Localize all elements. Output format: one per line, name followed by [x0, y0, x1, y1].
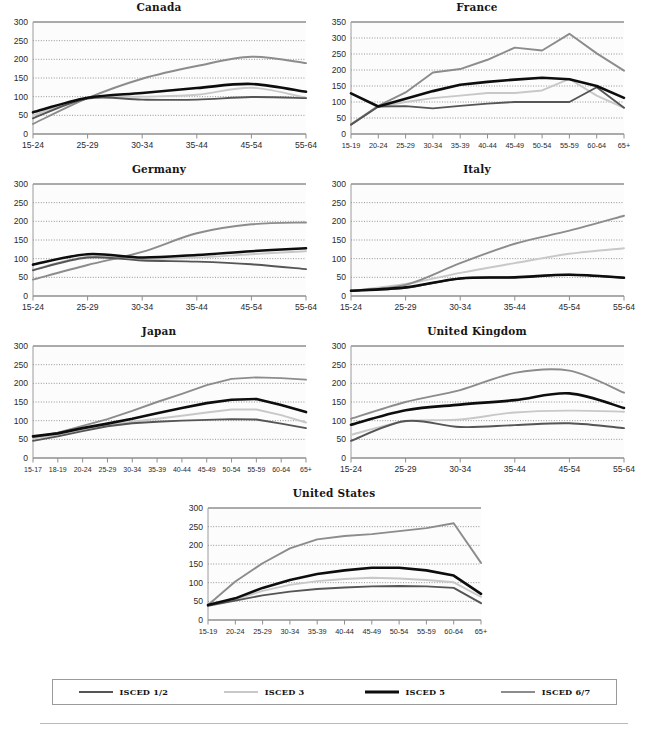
legend-item-isced-5[interactable]: ISCED 5: [335, 687, 476, 697]
y-axis-tick-label: 200: [14, 216, 29, 226]
x-axis-tick-label: 55-64: [613, 302, 635, 312]
y-axis-tick-label: 250: [332, 360, 347, 370]
y-axis-tick-label: 0: [341, 453, 346, 463]
x-axis-tick-label: 35-39: [308, 627, 327, 636]
x-axis-tick-label: 25-29: [77, 302, 99, 312]
x-axis-tick-label: 15-24: [22, 302, 44, 312]
y-axis-tick-label: 50: [18, 272, 28, 282]
y-axis-tick-label: 200: [189, 540, 204, 550]
y-axis-tick-label: 0: [341, 291, 346, 301]
y-axis-tick-label: 150: [14, 73, 29, 83]
x-axis-tick-label: 65+: [300, 466, 312, 473]
x-axis-tick-label: 15-17: [24, 466, 42, 473]
x-axis-tick-label: 30-34: [123, 466, 141, 473]
x-axis-tick-label: 20-24: [74, 466, 92, 473]
y-axis-tick-label: 250: [14, 360, 29, 370]
y-axis-tick-label: 100: [189, 578, 204, 588]
panel-canada: Canada 05010015020025030015-2425-2930-34…: [0, 0, 318, 162]
x-axis-tick-label: 65+: [618, 141, 630, 150]
panel-japan: Japan 05010015020025030015-1718-1920-242…: [0, 324, 318, 486]
y-axis-tick-label: 50: [336, 113, 346, 123]
x-axis-tick-label: 25-29: [77, 140, 99, 150]
y-axis-tick-label: 150: [189, 559, 204, 569]
panel-italy: Italy 05010015020025030015-2425-2930-343…: [318, 162, 636, 324]
y-axis-tick-label: 250: [332, 49, 347, 59]
x-axis-tick-label: 15-19: [342, 141, 361, 150]
panel-title-japan: Japan: [0, 324, 318, 338]
x-axis-tick-label: 50-54: [390, 627, 409, 636]
chart-row-3: Japan 05010015020025030015-1718-1920-242…: [0, 324, 668, 486]
chart-canada: 05010015020025030015-2425-2930-3435-4445…: [0, 14, 318, 162]
panel-united-kingdom: United Kingdom 05010015020025030015-2425…: [318, 324, 636, 486]
legend-item-isced-3[interactable]: ISCED 3: [194, 687, 335, 697]
y-axis-tick-label: 0: [341, 129, 346, 139]
y-axis-tick-label: 300: [189, 503, 204, 513]
y-axis-tick-label: 200: [14, 378, 29, 388]
x-axis-tick-label: 30-34: [449, 464, 471, 474]
y-axis-tick-label: 150: [14, 397, 29, 407]
x-axis-tick-label: 45-54: [240, 302, 262, 312]
y-axis-tick-label: 250: [189, 522, 204, 532]
y-axis-tick-label: 200: [332, 216, 347, 226]
x-axis-tick-label: 45-54: [240, 140, 262, 150]
panel-germany: Germany 05010015020025030015-2425-2930-3…: [0, 162, 318, 324]
x-axis-tick-label: 60-64: [444, 627, 463, 636]
y-axis-tick-label: 100: [14, 416, 29, 426]
panel-title-france: France: [318, 0, 636, 14]
x-axis-tick-label: 15-24: [340, 302, 362, 312]
x-axis-tick-label: 30-34: [131, 140, 153, 150]
y-axis-tick-label: 250: [14, 198, 29, 208]
y-axis-tick-label: 250: [14, 36, 29, 46]
panel-france: France 05010015020025030035015-1920-2425…: [318, 0, 636, 162]
legend-label: ISCED 1/2: [120, 687, 169, 697]
y-axis-tick-label: 300: [332, 33, 347, 43]
y-axis-tick-label: 100: [332, 254, 347, 264]
legend-item-isced-1-2[interactable]: ISCED 1/2: [53, 687, 194, 697]
x-axis-tick-label: 25-29: [396, 141, 415, 150]
y-axis-tick-label: 150: [332, 235, 347, 245]
y-axis-tick-label: 50: [336, 434, 346, 444]
legend-item-isced-6-7[interactable]: ISCED 6/7: [475, 687, 616, 697]
panel-title-germany: Germany: [0, 162, 318, 176]
x-axis-tick-label: 35-44: [504, 302, 526, 312]
y-axis-tick-label: 0: [23, 291, 28, 301]
x-axis-tick-label: 50-54: [223, 466, 241, 473]
x-axis-tick-label: 25-29: [395, 464, 417, 474]
legend-line-swatch: [79, 689, 113, 695]
x-axis-tick-label: 30-34: [131, 302, 153, 312]
legend-line-swatch: [365, 689, 399, 695]
y-axis-tick-label: 50: [18, 110, 28, 120]
legend-label: ISCED 6/7: [542, 687, 591, 697]
x-axis-tick-label: 40-44: [335, 627, 354, 636]
y-axis-tick-label: 100: [332, 416, 347, 426]
chart-svg: 05010015020025030015-2425-2930-3435-4445…: [0, 176, 318, 324]
x-axis-tick-label: 45-54: [558, 302, 580, 312]
footer-divider: [40, 723, 628, 724]
chart-svg: 05010015020025030015-2425-2930-3435-4445…: [318, 338, 636, 486]
chart-japan: 05010015020025030015-1718-1920-2425-2930…: [0, 338, 318, 486]
x-axis-tick-label: 25-29: [395, 302, 417, 312]
panel-united-states: United States 05010015020025030015-1920-…: [175, 486, 493, 648]
x-axis-tick-label: 15-19: [199, 627, 218, 636]
y-axis-tick-label: 300: [332, 341, 347, 351]
y-axis-tick-label: 300: [14, 341, 29, 351]
x-axis-tick-label: 45-49: [362, 627, 381, 636]
y-axis-tick-label: 100: [14, 92, 29, 102]
legend-line-swatch: [224, 689, 258, 695]
y-axis-tick-label: 300: [14, 17, 29, 27]
chart-united-states: 05010015020025030015-1920-2425-2930-3435…: [175, 500, 493, 648]
x-axis-tick-label: 35-44: [186, 140, 208, 150]
y-axis-tick-label: 150: [14, 235, 29, 245]
panel-title-united-kingdom: United Kingdom: [318, 324, 636, 338]
x-axis-tick-label: 35-44: [504, 464, 526, 474]
x-axis-tick-label: 60-64: [272, 466, 290, 473]
panel-title-united-states: United States: [175, 486, 493, 500]
x-axis-tick-label: 45-49: [198, 466, 216, 473]
chart-united-kingdom: 05010015020025030015-2425-2930-3435-4445…: [318, 338, 636, 486]
x-axis-tick-label: 40-44: [173, 466, 191, 473]
chart-svg: 05010015020025030015-2425-2930-3435-4445…: [318, 176, 636, 324]
legend-line-swatch: [501, 689, 535, 695]
legend-label: ISCED 5: [406, 687, 446, 697]
y-axis-tick-label: 50: [18, 434, 28, 444]
y-axis-tick-label: 100: [14, 254, 29, 264]
